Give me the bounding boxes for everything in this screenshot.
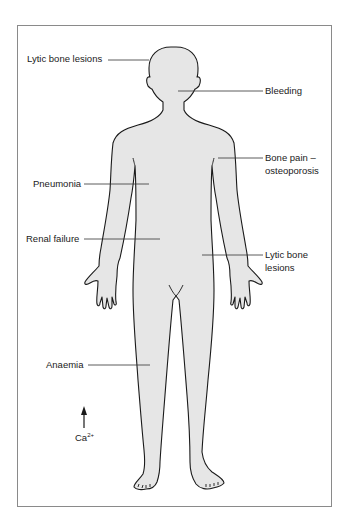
calcium-charge: 2+ — [87, 432, 94, 438]
body-silhouette — [85, 47, 262, 490]
label-calcium: Ca2+ — [75, 432, 94, 443]
label-osteoporosis: osteoporosis — [265, 165, 319, 177]
label-lytic-bone-pelvis: Lytic bone — [265, 249, 308, 261]
label-lesions-pelvis: lesions — [265, 262, 295, 274]
calcium-arrow-icon — [81, 406, 87, 428]
calcium-symbol: Ca — [75, 432, 87, 443]
label-bone-pain: Bone pain – — [265, 152, 316, 164]
label-anaemia: Anaemia — [46, 359, 84, 371]
label-renal-failure: Renal failure — [26, 233, 79, 245]
label-pneumonia: Pneumonia — [33, 178, 81, 190]
label-bleeding: Bleeding — [265, 85, 302, 97]
label-lytic-bone-lesions-head: Lytic bone lesions — [27, 53, 102, 65]
